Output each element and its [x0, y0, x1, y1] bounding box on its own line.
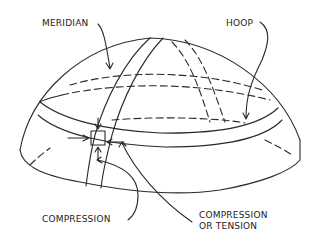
compression-or-tension-leader	[119, 142, 192, 222]
hoop-leader	[243, 22, 268, 119]
compression-or-tension-label-line1: COMPRESSION	[199, 210, 268, 220]
meridian-band	[86, 38, 163, 188]
dome-outline	[20, 38, 300, 193]
hoop-label: HOOP	[226, 18, 253, 28]
compression-label: COMPRESSION	[42, 214, 111, 224]
leader-lines	[97, 22, 268, 222]
meridian-label: MERIDIAN	[42, 18, 88, 28]
hoop-band	[38, 95, 282, 147]
compression-or-tension-label-line2: OR TENSION	[199, 221, 257, 231]
hidden-lines	[30, 40, 292, 165]
